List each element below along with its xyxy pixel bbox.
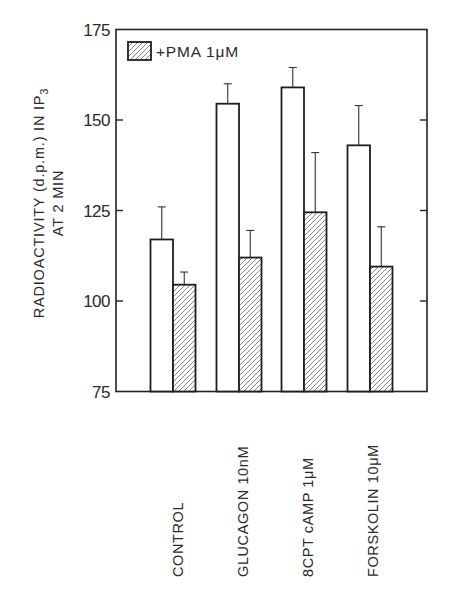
bar-group [348,106,393,392]
category-label: CONTROL [170,502,186,577]
bar-chart: RADIOACTIVITY (d.p.m.) IN IP3 AT 2 MIN 7… [0,0,450,596]
bar-open [217,104,240,392]
legend-label: +PMA 1μM [156,43,239,60]
category-label: 8CPT cAMP 1μM [300,457,316,577]
bar-open [348,145,371,391]
category-label: GLUCAGON 10nM [235,446,251,577]
y-tick-label: 75 [92,383,110,402]
bar-open [151,239,174,391]
x-axis-category-labels: CONTROLGLUCAGON 10nM8CPT cAMP 1μMFORSKOL… [170,444,381,577]
bar-pma [304,212,327,391]
category-label: FORSKOLIN 10μM [365,444,381,577]
bar-pma [239,258,262,392]
bar-pma [370,267,393,392]
bar-group [151,207,196,392]
bar-pma [173,285,196,392]
y-axis-label-line2: AT 2 MIN [50,170,66,236]
chart-container: RADIOACTIVITY (d.p.m.) IN IP3 AT 2 MIN 7… [0,0,450,596]
y-tick-label: 125 [83,202,110,221]
y-tick-label: 150 [83,111,110,130]
bar-group [282,68,327,392]
bar-group [217,84,262,392]
bar-groups [151,68,393,392]
y-axis-label-line1: RADIOACTIVITY (d.p.m.) IN IP3 [31,88,50,318]
y-tick-label: 100 [83,292,110,311]
legend: +PMA 1μM [128,42,239,60]
y-axis-label: RADIOACTIVITY (d.p.m.) IN IP3 AT 2 MIN [31,88,66,318]
bar-open [282,87,305,391]
legend-swatch-hatched [128,42,151,60]
y-tick-label: 175 [83,21,110,40]
